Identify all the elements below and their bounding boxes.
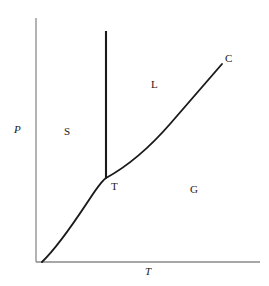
x-axis-label: T (145, 266, 151, 277)
vaporization-curve (106, 64, 222, 178)
y-axis-label: P (14, 124, 21, 135)
critical-point-label: C (225, 53, 232, 64)
sublimation-curve (42, 178, 106, 262)
phase-diagram: S L G T C P T (0, 0, 269, 286)
triple-point-label: T (111, 181, 118, 192)
region-label-liquid: L (151, 79, 158, 90)
phase-diagram-canvas (0, 0, 269, 286)
region-label-gas: G (190, 184, 198, 195)
region-label-solid: S (64, 126, 70, 137)
